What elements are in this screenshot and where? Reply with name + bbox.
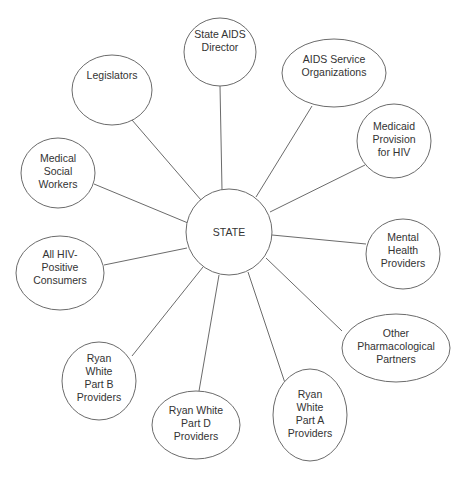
node-ryan-white-part-a-providers: RyanWhitePart AProviders [273, 369, 347, 461]
edge-state-to-other-pharmacological-partners [266, 258, 342, 331]
node-mental-health-providers-label-line: Health [388, 244, 419, 256]
node-aids-service-organizations: AIDS ServiceOrganizations [282, 39, 386, 107]
node-medical-social-workers-label-line: Medical [40, 152, 76, 164]
node-medicaid-provision-for-hiv: MedicaidProvisionfor HIV [357, 104, 431, 178]
node-ryan-white-part-b-providers: RyanWhitePart BProviders [62, 342, 136, 420]
edge-state-to-medicaid-provision-for-hiv [270, 165, 365, 212]
node-ryan-white-part-b-providers-label-line: White [86, 365, 113, 377]
edge-state-to-ryan-white-part-a-providers [248, 272, 285, 383]
node-all-hiv-positive-consumers-label-line: Positive [42, 261, 79, 273]
node-medicaid-provision-for-hiv-label-line: Medicaid [373, 120, 415, 132]
node-ryan-white-part-a-providers-label-line: White [297, 401, 324, 413]
node-ryan-white-part-d-providers-label-line: Providers [174, 430, 218, 442]
node-legislators: Legislators [72, 55, 152, 125]
node-medical-social-workers-label-line: Workers [39, 178, 78, 190]
node-ryan-white-part-b-providers-label-line: Ryan [87, 352, 112, 364]
node-other-pharmacological-partners-label-line: Partners [376, 353, 416, 365]
node-ryan-white-part-d-providers-label-line: Ryan White [169, 404, 223, 416]
node-ryan-white-part-a-providers-label-line: Providers [288, 427, 332, 439]
edge-state-to-medical-social-workers [94, 184, 188, 223]
node-all-hiv-positive-consumers-label-line: All HIV- [42, 248, 78, 260]
node-medicaid-provision-for-hiv-label-line: Provision [372, 133, 415, 145]
node-other-pharmacological-partners: OtherPharmacologicalPartners [342, 314, 450, 382]
edge-state-to-mental-health-providers [272, 235, 366, 244]
node-aids-service-organizations-label-line: AIDS Service [303, 53, 366, 65]
edge-state-to-all-hiv-positive-consumers [104, 248, 187, 265]
node-all-hiv-positive-consumers-label-line: Consumers [33, 274, 87, 286]
node-aids-service-organizations-label-line: Organizations [302, 66, 367, 78]
node-ryan-white-part-a-providers-label-line: Ryan [298, 388, 323, 400]
edge-state-to-ryan-white-part-d-providers [199, 275, 219, 391]
edge-state-to-state-aids-director [220, 86, 222, 190]
node-ryan-white-part-a-providers-label-line: Part A [296, 414, 325, 426]
node-legislators-label-line: Legislators [87, 69, 138, 81]
node-medicaid-provision-for-hiv-label-line: for HIV [378, 146, 411, 158]
node-ryan-white-part-b-providers-label-line: Part B [84, 378, 113, 390]
node-ryan-white-part-b-providers-label-line: Providers [77, 391, 121, 403]
node-legislators-shape [72, 55, 152, 125]
node-medical-social-workers: MedicalSocialWorkers [21, 138, 95, 208]
node-mental-health-providers: MentalHealthProviders [366, 219, 440, 289]
node-all-hiv-positive-consumers: All HIV-PositiveConsumers [16, 236, 104, 310]
edge-state-to-aids-service-organizations [256, 106, 312, 197]
node-mental-health-providers-label-line: Providers [381, 257, 425, 269]
node-state-aids-director: State AIDSDirector [184, 18, 256, 86]
edge-state-to-ryan-white-part-b-providers [132, 267, 203, 356]
node-state-center: STATE [186, 189, 272, 275]
node-state-aids-director-label-line: Director [202, 41, 239, 53]
node-ryan-white-part-d-providers: Ryan WhitePart DProviders [152, 391, 240, 459]
node-medical-social-workers-label-line: Social [44, 165, 73, 177]
node-mental-health-providers-label-line: Mental [387, 231, 419, 243]
node-ryan-white-part-d-providers-label-line: Part D [181, 417, 211, 429]
center-node-group: STATE [186, 189, 272, 275]
stakeholder-diagram: State AIDSDirectorAIDS ServiceOrganizati… [0, 0, 467, 479]
node-other-pharmacological-partners-label-line: Pharmacological [357, 340, 435, 352]
edge-state-to-legislators [132, 120, 201, 200]
node-state-aids-director-label-line: State AIDS [194, 28, 245, 40]
node-state-center-label-line: STATE [213, 226, 245, 238]
node-other-pharmacological-partners-label-line: Other [383, 327, 410, 339]
